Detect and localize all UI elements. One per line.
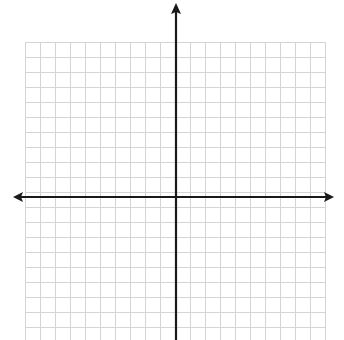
axes <box>13 3 334 340</box>
coordinate-plane <box>0 0 344 340</box>
